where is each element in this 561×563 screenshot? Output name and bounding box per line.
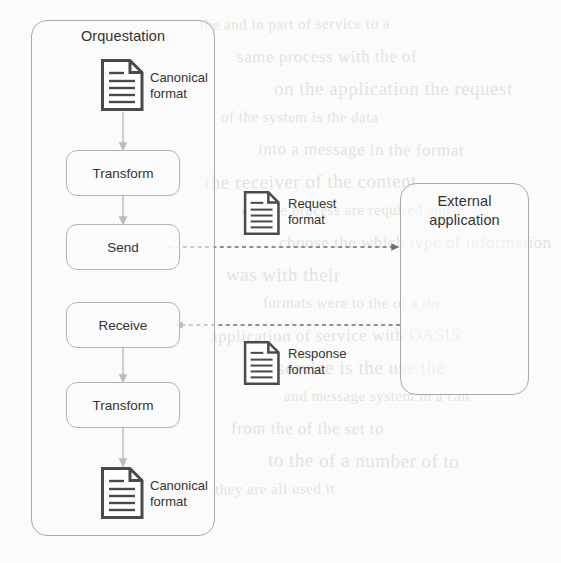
node-transform-bottom-label: Transform (92, 398, 153, 413)
container-external-application-label: External application (429, 193, 499, 228)
label-request-format: Request format (288, 196, 358, 227)
node-send[interactable]: Send (66, 224, 180, 270)
label-canonical-format-out: Canonical format (150, 478, 220, 509)
document-icon-response (243, 340, 281, 390)
node-transform-top[interactable]: Transform (66, 150, 180, 196)
node-transform-bottom[interactable]: Transform (66, 382, 180, 428)
node-send-label: Send (107, 240, 139, 255)
node-receive[interactable]: Receive (66, 302, 180, 348)
container-external-application-title: External application (400, 192, 529, 230)
node-transform-top-label: Transform (92, 166, 153, 181)
document-icon-canonical-in (100, 58, 145, 116)
label-canonical-format-in: Canonical format (150, 70, 220, 101)
container-orquestation-title: Orquestation (31, 28, 215, 44)
label-response-format: Response format (288, 346, 368, 377)
document-icon-canonical-out (100, 466, 145, 524)
document-icon-request (243, 190, 281, 240)
diagram-root: Orquestation External application Canoni… (0, 0, 561, 563)
node-receive-label: Receive (99, 318, 148, 333)
